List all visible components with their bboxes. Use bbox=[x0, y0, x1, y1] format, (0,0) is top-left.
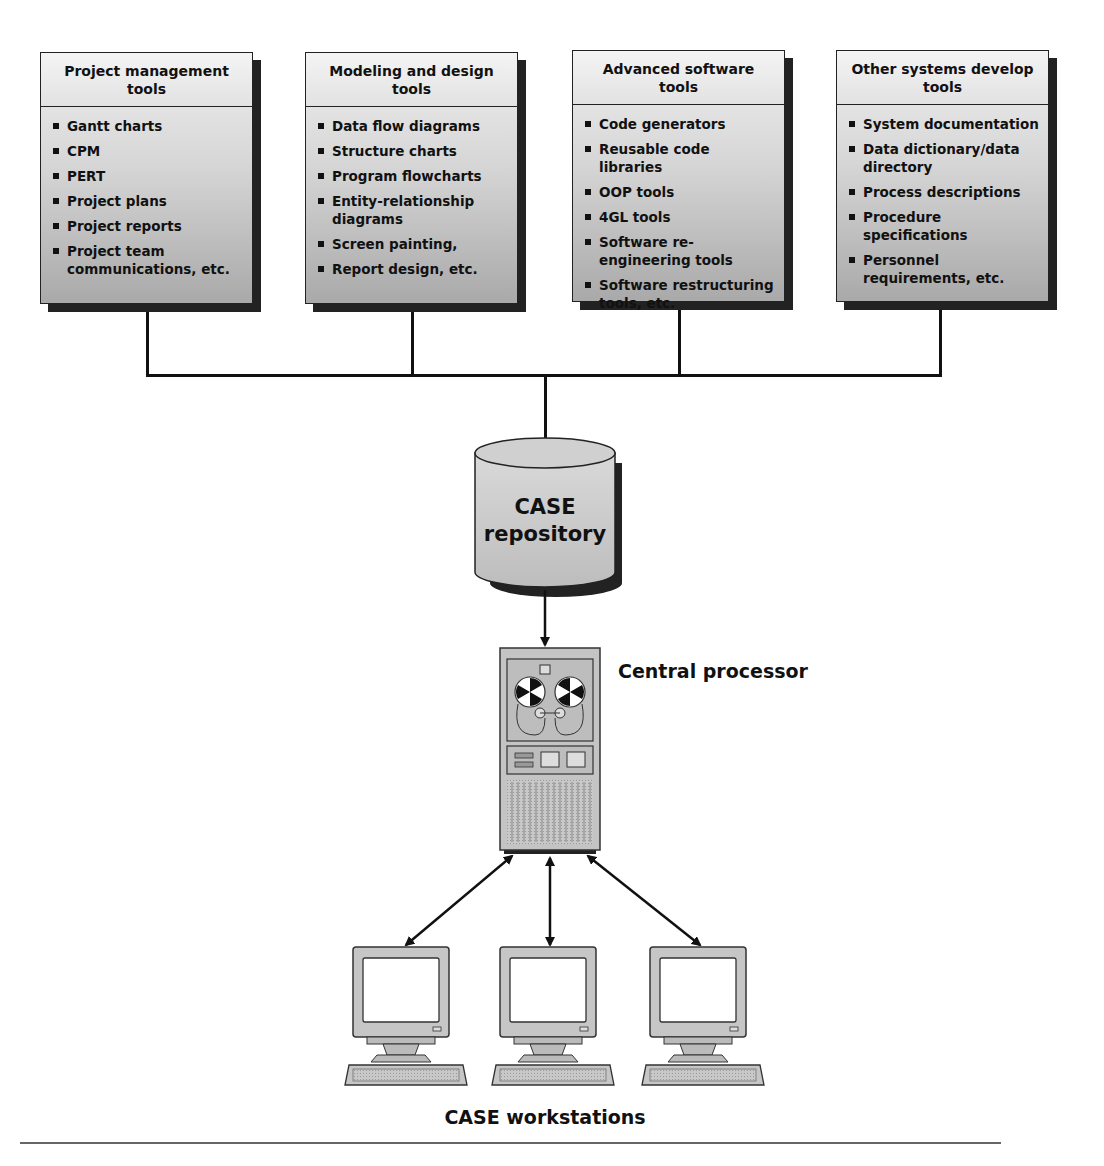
workstation-icon bbox=[492, 947, 614, 1085]
arrow-workstation-1 bbox=[406, 856, 512, 945]
repository-label: CASE repository bbox=[475, 494, 615, 548]
workstation-icon bbox=[642, 947, 764, 1085]
central-processor-icon bbox=[500, 648, 600, 854]
arrow-workstation-3 bbox=[588, 856, 700, 945]
repository-label-line1: CASE bbox=[475, 494, 615, 521]
workstations-label: CASE workstations bbox=[420, 1106, 670, 1128]
central-processor-label: Central processor bbox=[618, 660, 808, 682]
repository-label-line2: repository bbox=[475, 521, 615, 548]
workstation-icon bbox=[345, 947, 467, 1085]
diagram-graphics bbox=[0, 0, 1104, 1166]
